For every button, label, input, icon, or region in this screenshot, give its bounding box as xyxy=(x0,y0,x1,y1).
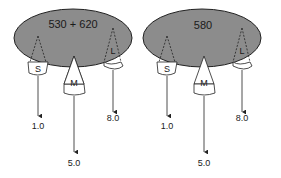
ellipse-title: 580 xyxy=(194,19,212,31)
cone-s-value: 1.0 xyxy=(32,121,45,131)
cone-m: M 5.0 xyxy=(194,56,215,168)
svg-text:L: L xyxy=(110,46,115,56)
cone-m: M 5.0 xyxy=(64,56,85,168)
svg-text:S: S xyxy=(164,64,170,74)
cone-m-value: 5.0 xyxy=(68,158,81,168)
ellipse-title: 530 + 620 xyxy=(48,18,97,30)
svg-text:L: L xyxy=(239,46,244,56)
cone-response-diagram: 530 + 620 S 1.0 M 5.0 L 8.0 xyxy=(0,0,281,178)
svg-text:S: S xyxy=(35,64,41,74)
cone-s-value: 1.0 xyxy=(161,121,174,131)
diagram-left: 530 + 620 S 1.0 M 5.0 L 8.0 xyxy=(14,9,132,168)
cone-l-value: 8.0 xyxy=(236,113,249,123)
diagram-right: 580 S 1.0 M 5.0 L 8.0 xyxy=(143,9,261,168)
svg-text:M: M xyxy=(200,78,208,88)
cone-m-value: 5.0 xyxy=(198,158,211,168)
single-ellipse xyxy=(143,9,261,67)
svg-text:M: M xyxy=(70,78,78,88)
cone-l-value: 8.0 xyxy=(107,113,120,123)
